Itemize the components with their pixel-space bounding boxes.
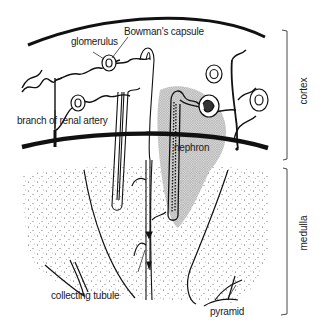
glomerulus-2 [71, 95, 85, 111]
label-branch-of-renal-artery: branch of renal artery [17, 116, 108, 126]
label-glomerulus: glomerulus [71, 37, 118, 47]
glomerulus-3 [206, 65, 222, 83]
region-brackets [281, 30, 287, 315]
label-pyramid: pyramid [210, 307, 244, 317]
corticomedullary-boundary [22, 134, 268, 148]
glomerulus-5 [250, 89, 268, 111]
label-nephron: nephron [174, 143, 209, 153]
medulla-region [22, 165, 268, 303]
label-bowmans-capsule: Bowman's capsule [124, 27, 204, 37]
glomerulus-1 [102, 55, 116, 71]
label-collecting-tubule: collecting tubule [51, 291, 119, 301]
label-medulla: medulla [299, 215, 309, 250]
kidney-diagram [0, 0, 324, 326]
label-cortex: cortex [299, 77, 309, 104]
